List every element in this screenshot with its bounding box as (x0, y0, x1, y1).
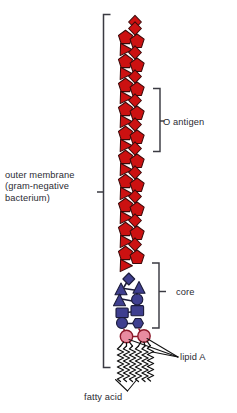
o-antigen-label: O antigen (163, 117, 204, 128)
outer-membrane-label-line1: outer membrane (5, 170, 75, 180)
outer-membrane-label-line3: bacterium) (5, 193, 50, 203)
lipid-a-sugar-right (138, 330, 150, 342)
core-label: core (176, 287, 195, 298)
lipid-a-label: lipid A (180, 352, 206, 363)
lipid-a-sugar-left (120, 330, 132, 342)
outer-membrane-label-line2: (gram-negative (5, 181, 69, 191)
lps-diagram: outer membrane(gram-negativebacterium) O… (0, 0, 237, 413)
fatty-acid-label: fatty acid (84, 392, 122, 403)
outer-membrane-label: outer membrane(gram-negativebacterium) (5, 170, 97, 204)
